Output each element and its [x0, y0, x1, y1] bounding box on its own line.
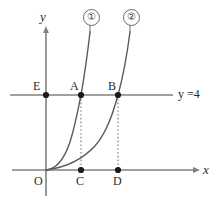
point-b-label: B [108, 80, 116, 92]
y-axis-label: y [40, 10, 46, 23]
line-y-equals-4-label: y =4 [178, 88, 200, 100]
x-axis-label: x [203, 163, 209, 176]
curve-1-marker: ① [83, 9, 100, 26]
figure-canvas [0, 0, 217, 204]
curve-1 [46, 32, 90, 170]
point-c-label: C [76, 175, 84, 187]
point-c [78, 167, 84, 173]
point-e-label: E [33, 80, 40, 92]
x-axis [12, 167, 200, 173]
point-d [115, 167, 121, 173]
point-a-label: A [70, 80, 79, 92]
point-d-label: D [113, 175, 122, 187]
geometry-figure: y x O y =4 E A B C D ① ② [0, 0, 217, 204]
origin-label: O [34, 175, 43, 187]
point-e [43, 92, 49, 98]
curve-2-marker: ② [123, 9, 140, 26]
